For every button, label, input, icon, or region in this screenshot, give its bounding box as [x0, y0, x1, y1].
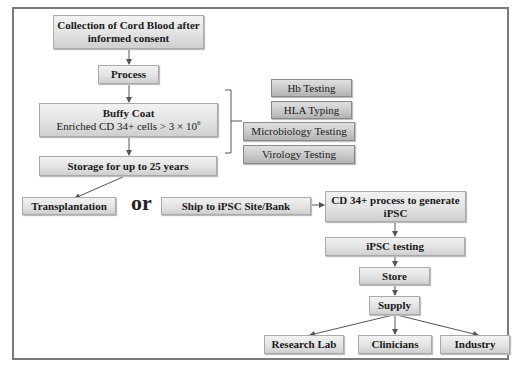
node-store-label: Store [382, 270, 407, 283]
node-ipsc-testing-label: iPSC testing [366, 240, 424, 253]
node-cd34-line2: iPSC [384, 207, 408, 220]
node-microbiology-testing-label: Microbiology Testing [251, 125, 346, 138]
node-buffy-coat: Buffy Coat Enriched CD 34+ cells > 3 × 1… [39, 103, 218, 137]
node-hb-testing-label: Hb Testing [287, 82, 335, 95]
node-hla-typing: HLA Typing [271, 101, 352, 119]
node-virology-testing: Virology Testing [243, 145, 355, 164]
node-cd34-line1: CD 34+ process to generate [331, 194, 459, 207]
node-ship-label: Ship to iPSC Site/Bank [182, 200, 291, 213]
node-research-lab-label: Research Lab [272, 338, 337, 351]
node-buffy-coat-title: Buffy Coat [103, 107, 155, 120]
node-hb-testing: Hb Testing [271, 79, 352, 97]
node-store: Store [359, 267, 430, 285]
node-collection-line2: informed consent [88, 32, 170, 45]
node-collection-line1: Collection of Cord Blood after [57, 19, 199, 32]
node-supply: Supply [369, 296, 420, 315]
node-hla-typing-label: HLA Typing [284, 104, 340, 117]
node-process-label: Process [111, 68, 146, 81]
node-transplantation: Transplantation [22, 197, 116, 215]
node-ipsc-testing: iPSC testing [325, 237, 465, 256]
buffy-subtitle-text: Enriched CD 34+ cells > 3 × 10 [56, 120, 197, 132]
node-industry-label: Industry [455, 338, 496, 351]
node-ship: Ship to iPSC Site/Bank [161, 197, 311, 215]
node-process: Process [98, 65, 159, 84]
node-collection: Collection of Cord Blood after informed … [53, 15, 204, 49]
node-research-lab: Research Lab [264, 335, 344, 354]
node-cd34-process: CD 34+ process to generate iPSC [325, 191, 466, 222]
connector-lines [0, 0, 525, 370]
node-buffy-coat-subtitle: Enriched CD 34+ cells > 3 × 106 [56, 120, 200, 133]
node-microbiology-testing: Microbiology Testing [243, 122, 355, 141]
node-virology-testing-label: Virology Testing [262, 148, 336, 161]
node-storage-label: Storage for up to 25 years [67, 160, 188, 173]
node-supply-label: Supply [378, 299, 411, 312]
node-transplantation-label: Transplantation [31, 200, 107, 213]
node-clinicians-label: Clinicians [371, 338, 418, 351]
node-clinicians: Clinicians [358, 335, 432, 354]
buffy-exponent: 6 [197, 119, 201, 127]
or-label: or [131, 190, 152, 216]
node-storage: Storage for up to 25 years [39, 156, 217, 176]
node-industry: Industry [440, 335, 510, 354]
